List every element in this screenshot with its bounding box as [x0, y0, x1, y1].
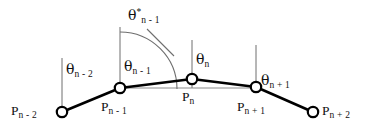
point-subscript: n + 1 [245, 106, 266, 116]
angle-label-theta-n: θn [196, 52, 209, 67]
point-label-p-n-plus-2: Pn + 2 [322, 104, 350, 118]
node-p-n [187, 74, 197, 84]
point-label-p-n: Pn [182, 90, 194, 104]
angle-label-theta-star-n-minus-1: θ*n - 1 [128, 8, 160, 23]
point-base: P [237, 99, 245, 114]
point-subscript: n [190, 96, 195, 106]
point-label-p-n-plus-1: Pn + 1 [237, 100, 265, 114]
theta-subscript: n [204, 59, 209, 69]
geometric-diagram: θn - 2 θn - 1 θn θn + 1 θ*n - 1 Pn - 2 P… [0, 0, 376, 133]
point-label-p-n-minus-1: Pn - 1 [101, 100, 127, 114]
point-subscript: n - 2 [19, 110, 37, 120]
node-p-n-plus-2 [308, 107, 318, 117]
node-p-n-minus-2 [57, 107, 67, 117]
node-p-n-plus-1 [251, 82, 261, 92]
theta-subscript: n + 1 [269, 80, 290, 90]
point-label-p-n-minus-2: Pn - 2 [11, 104, 37, 118]
node-p-n-minus-1 [115, 83, 125, 93]
arc-tick-mark [147, 29, 174, 56]
theta-subscript: n - 1 [141, 15, 159, 25]
point-base: P [322, 103, 330, 118]
point-base: P [11, 103, 19, 118]
angle-label-theta-n-minus-1: θn - 1 [124, 59, 151, 74]
angle-label-theta-n-minus-2: θn - 2 [66, 62, 93, 77]
point-subscript: n + 2 [330, 110, 351, 120]
diagram-canvas [0, 0, 376, 133]
theta-subscript: n - 2 [74, 69, 92, 79]
point-base: P [182, 89, 190, 104]
theta-subscript: n - 1 [132, 66, 150, 76]
point-base: P [101, 99, 109, 114]
angle-label-theta-n-plus-1: θn + 1 [261, 73, 290, 88]
point-subscript: n - 1 [109, 106, 127, 116]
